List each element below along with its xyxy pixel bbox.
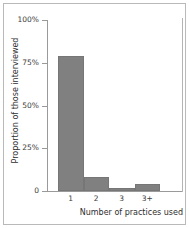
figure-right-rule xyxy=(182,18,183,192)
bar-category-2 xyxy=(84,177,110,191)
bar-chart-figure: 100% 75% 50% 25% 0 1 2 3 3+ Number of pr… xyxy=(0,0,189,228)
y-tick-label-100: 100% xyxy=(0,16,39,24)
bar-category-3plus xyxy=(135,184,161,191)
y-tick-label-50: 50% xyxy=(0,102,39,110)
plot-area xyxy=(47,20,182,191)
x-axis-baseline xyxy=(47,191,182,192)
y-tick-label-25: 25% xyxy=(0,144,39,152)
y-tick-label-75: 75% xyxy=(0,59,39,67)
y-axis-title: Proportion of those interviewed xyxy=(11,26,20,176)
x-axis-title: Number of practices used xyxy=(0,208,183,217)
x-tick-label-3: 3 xyxy=(119,195,124,203)
y-tick-label-0: 0 xyxy=(0,187,39,195)
y-tick-mark-0 xyxy=(42,191,48,192)
bar-category-1 xyxy=(58,56,84,191)
x-tick-label-3plus: 3+ xyxy=(142,195,153,203)
bar-category-3 xyxy=(109,188,135,191)
x-tick-label-2: 2 xyxy=(94,195,99,203)
x-tick-label-1: 1 xyxy=(68,195,73,203)
